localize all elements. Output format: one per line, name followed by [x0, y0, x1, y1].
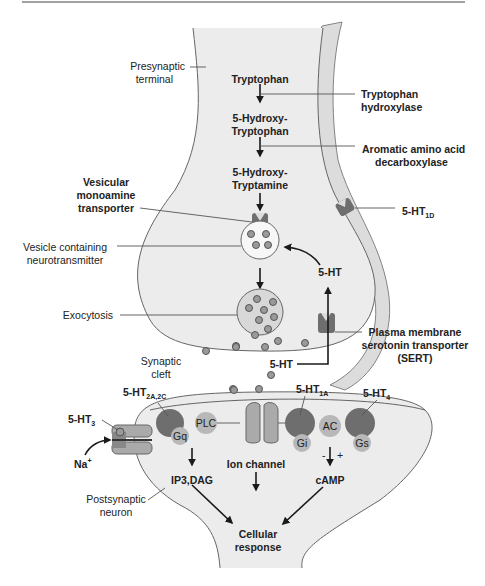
plus-sign: +: [337, 449, 343, 461]
sert-label-3: (SERT): [398, 352, 433, 364]
postsynaptic-label-1: Postsynaptic: [86, 493, 146, 505]
presynaptic-label: Presynaptic: [130, 60, 185, 72]
vesicle-label-2: neurotransmitter: [27, 254, 104, 266]
enzyme1-label-2: hydroxylase: [361, 101, 422, 113]
cleft-label-2: cleft: [151, 368, 170, 380]
serotonin-synapse-diagram: Presynaptic terminal Tryptophan Tryptoph…: [0, 0, 485, 586]
storage-vesicle: [241, 221, 279, 259]
htp-label-1: 5-Hydroxy-: [233, 112, 288, 124]
ht1a-receptor: [285, 408, 315, 438]
ht-label-2: Tryptamine: [232, 179, 288, 191]
reuptake-5ht-label: 5-HT: [318, 266, 342, 278]
sert-transporter: [318, 313, 335, 333]
ion-channel-label: Ion channel: [227, 458, 285, 470]
vmat-label-1: Vesicular: [83, 176, 129, 188]
exocytosis-vesicle: [237, 289, 283, 335]
ht4-receptor: [345, 408, 375, 438]
plc-label: PLC: [196, 417, 217, 429]
gq-label: Gq: [173, 430, 187, 442]
postsynaptic-label-2: neuron: [100, 506, 133, 518]
ht1a-label: 5-HT1A: [296, 383, 328, 397]
enzyme2-label-2: decarboxylase: [375, 156, 448, 168]
ht2-label: 5-HT2A,2C: [123, 386, 166, 401]
sert-label-1: Plasma membrane: [369, 326, 462, 338]
gs-label: Gs: [355, 437, 368, 449]
tryptophan-label: Tryptophan: [231, 73, 288, 85]
camp-label: cAMP: [315, 474, 344, 486]
ht-label-1: 5-Hydroxy-: [233, 166, 288, 178]
minus-sign: -: [322, 449, 326, 461]
ht3-label: 5-HT3: [68, 413, 95, 427]
cleft-5ht-label: 5-HT: [270, 358, 294, 370]
htp-label-2: Tryptophan: [231, 125, 288, 137]
vmat-label-2: monoamine: [77, 189, 136, 201]
ht4-label: 5-HT4: [363, 387, 390, 401]
enzyme1-label-1: Tryptophan: [361, 88, 418, 100]
presynaptic-label-2: terminal: [136, 73, 173, 85]
ac-label: AC: [323, 420, 338, 432]
gi-label: Gi: [297, 437, 308, 449]
vmat-label-3: transporter: [78, 202, 134, 214]
vesicle-label-1: Vesicle containing: [23, 241, 107, 253]
exocytosis-label: Exocytosis: [63, 309, 113, 321]
enzyme2-label-1: Aromatic amino acid: [362, 143, 465, 155]
ht1d-label: 5-HT1D: [402, 205, 434, 219]
cleft-label-1: Synaptic: [141, 355, 181, 367]
ip3-dag-label: IP3,DAG: [171, 474, 213, 486]
cellular-response-label-1: Cellular: [239, 528, 278, 540]
sert-label-2: serotonin transporter: [362, 339, 469, 351]
cellular-response-label-2: response: [235, 541, 282, 553]
ht3-receptor: [112, 425, 152, 454]
sodium-label: Na+: [74, 457, 92, 470]
